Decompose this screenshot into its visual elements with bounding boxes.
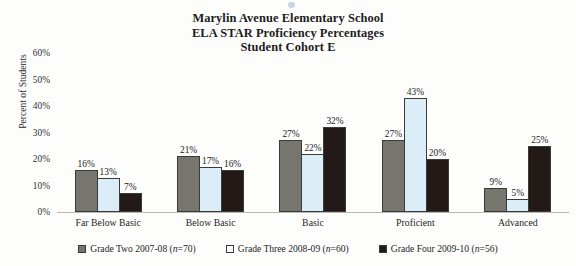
legend-item-label: Grade Two 2007-08 (n=70) <box>90 243 196 254</box>
chart-title-line-2: ELA STAR Proficiency Percentages <box>0 26 576 41</box>
bar[interactable]: 27% <box>382 140 405 212</box>
chart-legend: Grade Two 2007-08 (n=70)Grade Three 2008… <box>0 243 576 254</box>
x-axis-category-label: Below Basic <box>159 217 261 228</box>
bar-group: 16%13%7%Far Below Basic <box>57 53 159 212</box>
bar[interactable]: 7% <box>119 193 142 212</box>
bar[interactable]: 27% <box>279 140 302 212</box>
y-axis-tick-label: 40% <box>33 101 50 111</box>
y-axis-tick-label: 60% <box>33 48 50 58</box>
bar-value-label: 16% <box>224 159 241 169</box>
x-axis-category-label: Proficient <box>364 217 466 228</box>
y-axis-tick-label: 10% <box>33 181 50 191</box>
y-axis-title: Percent of Students <box>17 22 28 162</box>
y-axis-tick-label: 20% <box>33 154 50 164</box>
legend-color-swatch <box>379 245 387 253</box>
bar-value-label: 27% <box>282 129 299 139</box>
legend-item[interactable]: Grade Two 2007-08 (n=70) <box>78 243 196 254</box>
chart-title: Marylin Avenue Elementary School ELA STA… <box>0 11 576 55</box>
bar-value-label: 22% <box>304 143 321 153</box>
bar[interactable]: 16% <box>221 170 244 212</box>
bar-group-bars: 21%17%16% <box>159 53 261 212</box>
legend-item-label: Grade Four 2009-10 (n=56) <box>391 243 498 254</box>
bar-group: 27%22%32%Basic <box>262 53 364 212</box>
y-axis-tick-label: 50% <box>33 75 50 85</box>
bar[interactable]: 21% <box>177 156 200 212</box>
bar-value-label: 13% <box>100 167 117 177</box>
bar-value-label: 43% <box>407 87 424 97</box>
y-axis-tick-label: 0% <box>38 207 51 217</box>
scan-artifact-speck <box>288 2 295 8</box>
bar[interactable]: 5% <box>506 199 529 212</box>
legend-item-label: Grade Three 2008-09 (n=60) <box>238 243 349 254</box>
bar-value-label: 27% <box>385 129 402 139</box>
bar-value-label: 7% <box>124 182 137 192</box>
bar[interactable]: 17% <box>199 167 222 212</box>
bar[interactable]: 20% <box>426 159 449 212</box>
legend-item[interactable]: Grade Four 2009-10 (n=56) <box>379 243 498 254</box>
bar-value-label: 16% <box>78 159 95 169</box>
legend-color-swatch <box>226 245 234 253</box>
legend-color-swatch <box>78 245 86 253</box>
x-axis-category-label: Basic <box>262 217 364 228</box>
bar[interactable]: 16% <box>75 170 98 212</box>
x-axis-category-label: Advanced <box>467 217 569 228</box>
bar-group-bars: 9%5%25% <box>467 53 569 212</box>
bar-group-bars: 16%13%7% <box>57 53 159 212</box>
x-axis-category-label: Far Below Basic <box>57 217 159 228</box>
bar-value-label: 5% <box>512 188 525 198</box>
bar[interactable]: 22% <box>301 154 324 212</box>
bar[interactable]: 9% <box>484 188 507 212</box>
bar-value-label: 20% <box>429 148 446 158</box>
bar-value-label: 21% <box>180 145 197 155</box>
bar-value-label: 32% <box>326 116 343 126</box>
bar-group: 27%43%20%Proficient <box>364 53 466 212</box>
bar[interactable]: 43% <box>404 98 427 212</box>
y-axis-tick-label: 30% <box>33 128 50 138</box>
bar-value-label: 25% <box>531 135 548 145</box>
x-axis-baseline <box>57 212 569 213</box>
bar-value-label: 9% <box>490 177 503 187</box>
bar-value-label: 17% <box>202 156 219 166</box>
bar[interactable]: 32% <box>323 127 346 212</box>
bar[interactable]: 13% <box>97 178 120 212</box>
bar-group-bars: 27%22%32% <box>262 53 364 212</box>
plot-area: 0%10%20%30%40%50%60% 16%13%7%Far Below B… <box>57 53 569 212</box>
legend-item[interactable]: Grade Three 2008-09 (n=60) <box>226 243 349 254</box>
chart-title-line-1: Marylin Avenue Elementary School <box>0 11 576 26</box>
bar[interactable]: 25% <box>528 146 551 212</box>
bar-group-bars: 27%43%20% <box>364 53 466 212</box>
bar-group: 9%5%25%Advanced <box>467 53 569 212</box>
bar-group: 21%17%16%Below Basic <box>159 53 261 212</box>
